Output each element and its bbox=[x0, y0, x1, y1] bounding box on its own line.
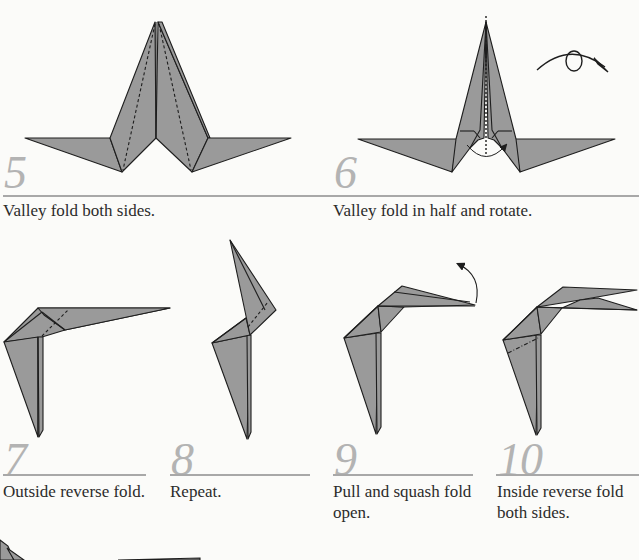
divider-step-9 bbox=[333, 474, 473, 476]
step-caption-8: Repeat. bbox=[170, 481, 221, 502]
step-number-6: 6 bbox=[334, 150, 356, 196]
divider-step-6 bbox=[300, 195, 639, 197]
step-caption-10-line-2: both sides. bbox=[497, 502, 624, 523]
step-number-5: 5 bbox=[4, 150, 26, 196]
step-number-8: 8 bbox=[171, 437, 193, 483]
step-caption-10-line-1: Inside reverse fold bbox=[497, 481, 624, 502]
step-caption-10: Inside reverse fold both sides. bbox=[497, 481, 624, 523]
step-7-diagram bbox=[4, 308, 170, 437]
step-caption-6: Valley fold in half and rotate. bbox=[333, 200, 532, 221]
divider-step-8 bbox=[170, 474, 310, 476]
step-8-diagram bbox=[212, 240, 276, 439]
divider-step-10 bbox=[496, 474, 639, 476]
step-9-diagram bbox=[344, 286, 475, 434]
curved-arrow-icon bbox=[458, 264, 477, 303]
step-number-9: 9 bbox=[334, 437, 356, 483]
step-10-diagram bbox=[503, 287, 637, 435]
step-6-diagram bbox=[358, 16, 615, 172]
step-caption-9: Pull and squash fold open. bbox=[333, 481, 471, 523]
rotate-arrow-icon bbox=[537, 51, 608, 72]
step-number-10: 10 bbox=[498, 437, 542, 483]
divider-step-7 bbox=[3, 474, 146, 476]
fold-diagrams bbox=[0, 0, 639, 560]
next-step-diagram-partial bbox=[0, 540, 200, 560]
step-5-diagram bbox=[25, 22, 291, 172]
origami-instruction-page: 5 Valley fold both sides. 6 Valley fold … bbox=[0, 0, 639, 560]
step-number-7: 7 bbox=[4, 437, 26, 483]
step-caption-5: Valley fold both sides. bbox=[3, 200, 155, 221]
step-caption-7: Outside reverse fold. bbox=[3, 481, 145, 502]
divider-step-5 bbox=[3, 195, 308, 197]
step-caption-9-line-1: Pull and squash fold bbox=[333, 481, 471, 502]
step-caption-9-line-2: open. bbox=[333, 502, 471, 523]
